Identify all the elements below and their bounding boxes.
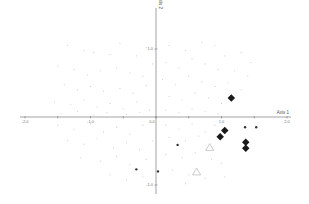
data-point — [175, 84, 176, 85]
data-point — [169, 96, 170, 97]
data-point — [70, 104, 71, 105]
data-point — [106, 112, 107, 113]
data-point — [152, 63, 153, 64]
data-point — [221, 103, 222, 104]
data-point — [129, 133, 130, 134]
x-tick-label: 0.0 — [149, 119, 155, 124]
data-point — [224, 55, 225, 56]
data-point — [218, 69, 219, 70]
data-point — [129, 72, 130, 73]
data-point — [126, 142, 127, 143]
data-point — [119, 88, 120, 89]
data-point — [96, 106, 97, 107]
data-point — [57, 65, 58, 66]
data-point — [126, 114, 127, 115]
data-point — [162, 79, 163, 80]
data-point — [57, 125, 58, 126]
data-point — [116, 67, 117, 68]
diamond-point — [221, 127, 229, 135]
data-point — [142, 176, 143, 177]
data-point — [110, 54, 111, 55]
data-point — [142, 125, 143, 126]
data-point — [185, 183, 186, 184]
data-point — [191, 59, 192, 60]
dark-dot-point — [255, 126, 257, 128]
data-point — [165, 110, 166, 111]
data-point — [182, 99, 183, 100]
data-point — [126, 179, 127, 180]
data-point — [185, 140, 186, 141]
data-point — [227, 82, 228, 83]
diamond-point — [216, 133, 224, 141]
data-point — [60, 113, 61, 114]
data-point — [188, 174, 189, 175]
data-point — [234, 70, 235, 71]
data-point — [214, 45, 215, 46]
data-point — [205, 178, 206, 179]
x-tick-label: 1.0 — [219, 119, 225, 124]
data-point — [198, 135, 199, 136]
data-point — [129, 164, 130, 165]
data-point — [139, 112, 140, 113]
data-point — [93, 52, 94, 53]
data-point — [191, 108, 192, 109]
data-point — [218, 113, 219, 114]
data-point — [152, 140, 153, 141]
data-point — [191, 123, 192, 124]
data-point — [178, 129, 179, 130]
data-point — [116, 127, 117, 128]
data-point — [195, 93, 196, 94]
data-point — [54, 101, 55, 102]
data-point — [139, 149, 140, 150]
data-point — [74, 69, 75, 70]
triangle-point — [206, 144, 214, 151]
data-point — [165, 125, 166, 126]
data-point — [224, 176, 225, 177]
scatter-plot: -2.0-1.00.01.02.0 1.0-1.0 Axis 1 Axis 2 — [0, 0, 309, 204]
data-point — [100, 161, 101, 162]
y-axis-title: Axis 2 — [158, 0, 163, 9]
data-point — [110, 174, 111, 175]
data-point — [214, 86, 215, 87]
y-tick-label: 1.0 — [147, 46, 153, 51]
data-point — [185, 50, 186, 51]
data-point — [250, 62, 251, 63]
data-point — [169, 137, 170, 138]
data-point — [136, 101, 137, 102]
dark-dot-point — [176, 144, 178, 146]
data-point — [205, 131, 206, 132]
data-point — [146, 159, 147, 160]
diamond-point — [242, 145, 250, 153]
dark-dot-point — [157, 170, 159, 172]
data-point — [208, 97, 209, 98]
x-axis-title: Axis 1 — [277, 110, 290, 115]
data-point — [221, 163, 222, 164]
data-point — [201, 42, 202, 43]
data-point — [113, 147, 114, 148]
background-points-layer — [54, 42, 252, 185]
data-point — [83, 99, 84, 100]
axes-layer: -2.0-1.00.01.02.0 1.0-1.0 Axis 1 Axis 2 — [20, 0, 291, 194]
data-point — [96, 138, 97, 139]
data-point — [116, 156, 117, 157]
data-point — [169, 45, 170, 46]
data-point — [67, 140, 68, 141]
markers-layer — [135, 94, 257, 175]
data-point — [64, 84, 65, 85]
data-point — [247, 76, 248, 77]
data-point — [100, 70, 101, 71]
x-tick-label: 2.0 — [284, 119, 290, 124]
x-tick-label: -1.0 — [87, 119, 95, 124]
data-point — [110, 103, 111, 104]
data-point — [241, 89, 242, 90]
data-point — [178, 112, 179, 113]
data-point — [214, 125, 215, 126]
data-point — [241, 52, 242, 53]
data-point — [178, 67, 179, 68]
data-point — [142, 76, 143, 77]
data-point — [103, 131, 104, 132]
data-point — [205, 63, 206, 64]
x-tick-label: -2.0 — [22, 119, 30, 124]
triangle-point — [193, 168, 201, 175]
data-point — [195, 152, 196, 153]
